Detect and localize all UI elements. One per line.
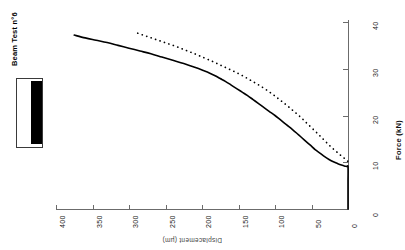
series-dotted-line [138,33,348,161]
plot-area [0,0,405,250]
chart-figure: 010203040 400350300250200150100500 Force… [0,0,405,250]
series-solid-line [74,35,348,209]
